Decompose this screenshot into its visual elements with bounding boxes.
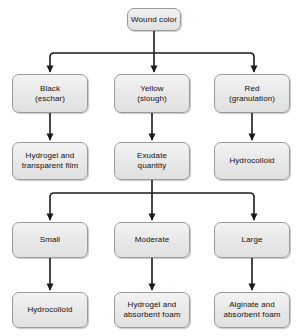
node-hydrocolloid-small[interactable]: Hydrocolloid bbox=[12, 292, 88, 328]
node-small[interactable]: Small bbox=[12, 222, 88, 258]
node-label: Wound color bbox=[131, 15, 177, 25]
node-hydrogel-transparent-film[interactable]: Hydrogel andtransparent film bbox=[12, 142, 88, 180]
node-exudate-quantity[interactable]: Exudatequantity bbox=[114, 142, 190, 180]
node-red-granulation[interactable]: Red(granulation) bbox=[214, 74, 290, 113]
node-label: Hydrogel andtransparent film bbox=[22, 151, 79, 171]
node-label: Exudatequantity bbox=[137, 151, 167, 171]
node-label: Small bbox=[40, 235, 61, 245]
node-label: Hydrogel andabsorbent foam bbox=[124, 300, 181, 320]
node-moderate[interactable]: Moderate bbox=[114, 222, 190, 258]
node-label: Moderate bbox=[135, 235, 170, 245]
node-label: Large bbox=[242, 235, 263, 245]
node-label: Red(granulation) bbox=[229, 84, 275, 104]
node-large[interactable]: Large bbox=[214, 222, 290, 258]
flowchart: Wound color Black(eschar) Yellow(slough)… bbox=[0, 0, 303, 336]
node-alginate-absorbent-foam[interactable]: Alginate andabsorbent foam bbox=[214, 292, 290, 328]
node-label: Yellow(slough) bbox=[137, 84, 167, 104]
node-black-eschar[interactable]: Black(eschar) bbox=[12, 74, 88, 113]
edge-bus-top bbox=[50, 53, 254, 61]
node-label: Hydrocolloid bbox=[27, 305, 72, 315]
node-hydrocolloid-red[interactable]: Hydrocolloid bbox=[214, 142, 290, 180]
node-label: Hydrocolloid bbox=[229, 156, 274, 166]
node-hydrogel-absorbent-foam[interactable]: Hydrogel andabsorbent foam bbox=[114, 292, 190, 328]
node-label: Black(eschar) bbox=[35, 84, 65, 104]
node-wound-color[interactable]: Wound color bbox=[127, 8, 181, 31]
node-label: Alginate andabsorbent foam bbox=[224, 300, 281, 320]
node-yellow-slough[interactable]: Yellow(slough) bbox=[114, 74, 190, 113]
